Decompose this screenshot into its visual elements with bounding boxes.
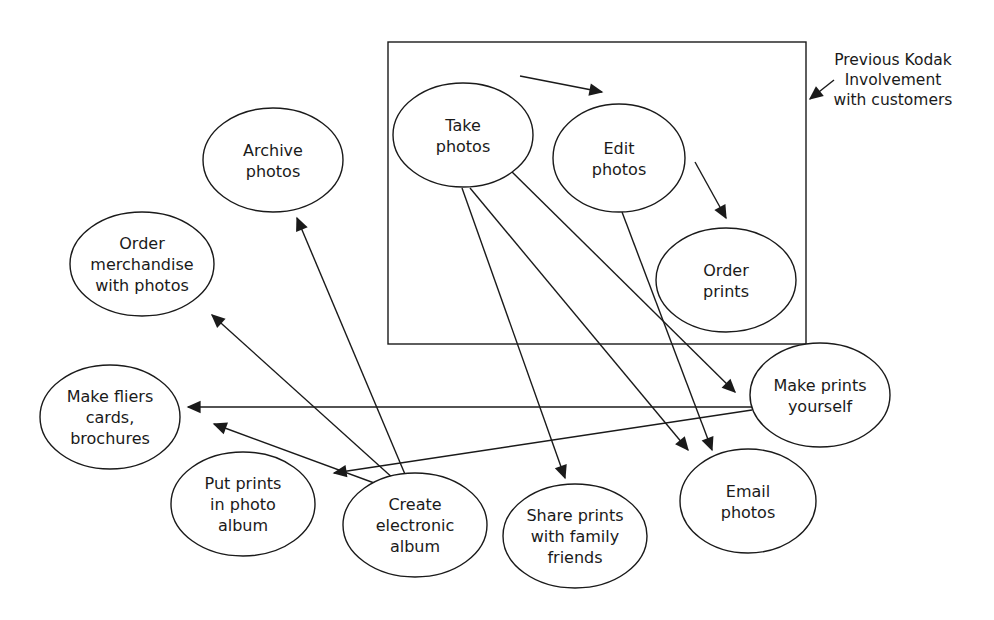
node-merch: Ordermerchandisewith photos <box>70 212 214 316</box>
node-label-line: friends <box>547 548 602 567</box>
node-email: Emailphotos <box>680 449 816 553</box>
node-label-line: Share prints <box>526 506 623 525</box>
node-label-line: album <box>390 537 440 556</box>
node-electronic: Createelectronicalbum <box>343 473 487 577</box>
node-label-line: merchandise <box>90 255 193 274</box>
note-arrow-icon <box>810 80 834 99</box>
edge-electronic-to-archive <box>297 218 415 498</box>
node-ellipse <box>203 108 343 212</box>
node-label-line: Order <box>119 234 165 253</box>
node-label-line: yourself <box>788 397 853 416</box>
node-make-prints: Make printsyourself <box>750 343 890 447</box>
node-label-line: Make fliers <box>67 387 154 406</box>
kodak-activity-diagram: TakephotosEditphotosOrderprintsArchiveph… <box>0 0 994 620</box>
edge-take-to-email <box>470 188 688 450</box>
node-ellipse <box>750 343 890 447</box>
node-take: Takephotos <box>393 83 533 187</box>
node-label-line: photos <box>436 137 490 156</box>
node-order-prints: Orderprints <box>656 228 796 332</box>
node-put-prints: Put printsin photoalbum <box>171 452 315 556</box>
node-fliers: Make flierscards,brochures <box>40 365 180 469</box>
node-label-line: Put prints <box>205 474 282 493</box>
node-label-line: electronic <box>376 516 455 535</box>
edge-edit-to-order_prints <box>695 162 726 218</box>
node-label-line: with family <box>531 527 619 546</box>
node-label-line: Create <box>388 495 441 514</box>
node-label-line: cards, <box>86 408 134 427</box>
node-label-line: with photos <box>95 276 189 295</box>
node-ellipse <box>680 449 816 553</box>
node-label-line: Take <box>444 116 480 135</box>
node-label-line: album <box>218 516 268 535</box>
node-label-line: Email <box>726 482 770 501</box>
node-label-line: Archive <box>243 141 303 160</box>
note-line-2: Involvement <box>845 71 942 89</box>
node-label-line: brochures <box>70 429 150 448</box>
edge-take-to-share <box>462 188 565 478</box>
node-edit: Editphotos <box>553 104 685 212</box>
node-share: Share printswith familyfriends <box>503 484 647 588</box>
node-ellipse <box>553 104 685 212</box>
node-label-line: Make prints <box>773 376 866 395</box>
node-label-line: photos <box>592 160 646 179</box>
boundary-note: Previous Kodak Involvement with customer… <box>810 51 952 109</box>
node-label-line: Order <box>703 261 749 280</box>
node-label-line: in photo <box>210 495 276 514</box>
node-label-line: photos <box>721 503 775 522</box>
nodes: TakephotosEditphotosOrderprintsArchiveph… <box>40 83 890 588</box>
node-ellipse <box>656 228 796 332</box>
node-label-line: Edit <box>604 139 635 158</box>
node-ellipse <box>393 83 533 187</box>
note-line-3: with customers <box>834 91 953 109</box>
node-label-line: photos <box>246 162 300 181</box>
node-label-line: prints <box>703 282 749 301</box>
edge-make_prints-to-put_prints <box>334 410 752 473</box>
edge-take-to-edit <box>520 76 602 92</box>
node-archive: Archivephotos <box>203 108 343 212</box>
note-line-1: Previous Kodak <box>834 51 952 69</box>
